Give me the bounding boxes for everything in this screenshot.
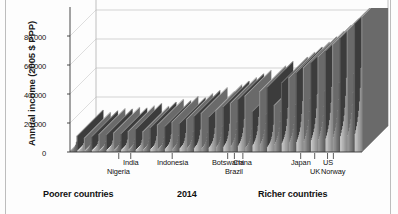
country-label-india: India: [123, 158, 139, 167]
country-label-china: China: [233, 158, 252, 167]
country-label-indonesia: Indonesia: [157, 158, 188, 167]
country-label-uk: UK: [310, 167, 320, 176]
chart-plot-area: [0, 0, 398, 214]
country-label-us: US: [323, 158, 333, 167]
chart-bars: [70, 0, 388, 152]
country-label-nigeria: Nigeria: [107, 167, 130, 176]
country-label-brazil: Brazil: [225, 167, 243, 176]
country-label-norway: Norway: [321, 167, 345, 176]
caption-poorer: Poorer countries: [43, 189, 113, 199]
caption-richer: Richer countries: [258, 189, 327, 199]
country-label-japan: Japan: [291, 158, 311, 167]
chart-figure: Annual income (2005 $ PPP) 0 20,000 40,0…: [0, 0, 398, 214]
caption-year: 2014: [177, 189, 197, 199]
